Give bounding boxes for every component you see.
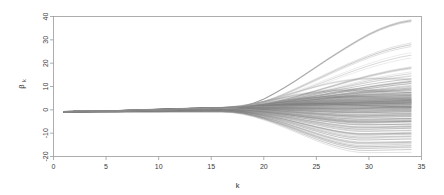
series-layer: [64, 20, 411, 153]
y-tick-label: 20: [42, 59, 49, 67]
x-axis-title: k: [236, 181, 240, 190]
y-tick-label: -10: [42, 128, 49, 138]
chart-figure: 05101520253035 -20-10010203040 kβk: [0, 0, 444, 195]
x-axis: 05101520253035: [52, 157, 426, 170]
y-axis-title: βk: [17, 79, 27, 89]
y-tick-label: 30: [42, 36, 49, 44]
series-line: [64, 110, 411, 135]
series-line: [64, 110, 411, 135]
y-axis-title-symbol: β: [17, 84, 26, 89]
x-tick-label: 15: [207, 163, 215, 170]
series-line: [64, 112, 411, 150]
x-tick-label: 0: [52, 163, 56, 170]
series-line: [64, 110, 411, 138]
y-axis-title-subscript: k: [21, 79, 27, 82]
series-line: [64, 112, 411, 149]
y-tick-label: 40: [42, 13, 49, 21]
x-tick-label: 20: [260, 163, 268, 170]
x-tick-label: 5: [104, 163, 108, 170]
x-tick-label: 25: [312, 163, 320, 170]
y-axis: -20-10010203040: [42, 13, 53, 162]
series-line: [64, 111, 411, 143]
x-tick-label: 35: [418, 163, 426, 170]
y-tick-label: 10: [42, 83, 49, 91]
x-tick-label: 10: [155, 163, 163, 170]
y-tick-label: -20: [42, 151, 49, 161]
x-tick-label: 30: [365, 163, 373, 170]
plot-canvas: 05101520253035 -20-10010203040 kβk: [0, 0, 444, 195]
y-tick-label: 0: [42, 108, 49, 112]
series-line: [64, 112, 411, 149]
axis-titles: kβk: [17, 79, 240, 190]
